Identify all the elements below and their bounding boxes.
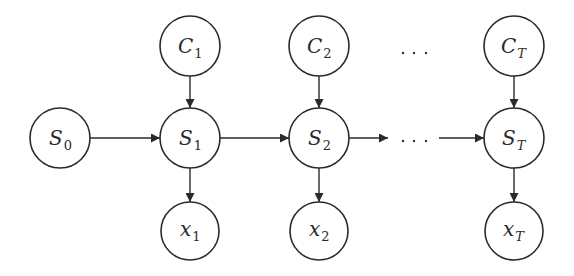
node-c1: C1 — [160, 16, 220, 76]
node-x2: x2 — [290, 202, 348, 260]
node-ct: CT — [484, 16, 544, 76]
node-s0: S0 — [30, 108, 90, 168]
ellipsis-middle — [402, 140, 427, 142]
node-c2: C2 — [289, 16, 349, 76]
node-st: ST — [484, 108, 544, 168]
node-xt: xT — [485, 202, 543, 260]
node-s2: S2 — [289, 108, 349, 168]
ellipsis-top — [402, 52, 427, 54]
node-s1: S1 — [160, 108, 220, 168]
node-x1: x1 — [161, 202, 219, 260]
hmm-diagram: S0 S1 S2 ST C1 C2 CT x1 x2 xT — [0, 0, 574, 276]
